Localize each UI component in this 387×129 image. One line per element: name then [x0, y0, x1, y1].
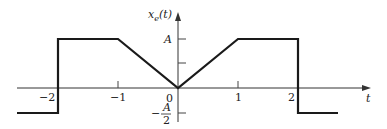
x-label-p1: 1	[235, 91, 242, 104]
x-axis-arrow-icon	[362, 85, 371, 91]
y-label-neg-half-sign: −	[151, 107, 160, 120]
x-label-p2: 2	[288, 91, 295, 104]
x-label-m1: −1	[110, 91, 126, 104]
x-label-zero: 0	[166, 92, 173, 105]
x-axis-label: t	[366, 92, 371, 105]
y-axis-arrow-icon	[175, 12, 181, 21]
y-label-A: A	[163, 33, 172, 46]
signal-plot: xe(t) A − A 2 −2 −1 0 1 2 t	[0, 0, 387, 129]
y-axis-label: xe(t)	[148, 8, 172, 23]
y-label-neg-half-den: 2	[163, 114, 170, 127]
x-label-m2: −2	[39, 91, 55, 104]
